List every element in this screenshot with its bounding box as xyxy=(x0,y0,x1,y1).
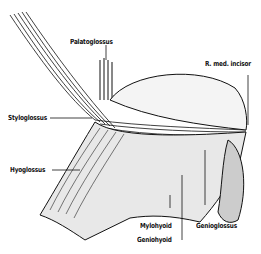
label-geniohyoid: Geniohyoid xyxy=(137,236,172,244)
label-palatoglossus: Palatoglossus xyxy=(70,38,113,46)
label-r-med-incisor: R. med. incisor xyxy=(205,60,251,68)
label-styloglossus: Styloglossus xyxy=(8,114,47,122)
tongue-dorsum xyxy=(110,74,247,130)
tongue-muscle-illustration xyxy=(0,0,261,254)
palatoglossus-fibers xyxy=(100,58,112,100)
label-mylohyoid: Mylohyoid xyxy=(140,222,172,230)
label-hyoglossus: Hyoglossus xyxy=(10,166,45,174)
label-genioglossus: Genioglossus xyxy=(196,222,237,230)
